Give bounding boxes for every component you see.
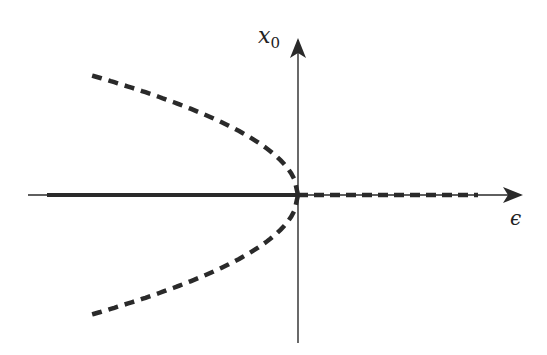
bifurcation-diagram: x0 ϵ [0, 0, 547, 355]
epsilon-axis-label: ϵ [510, 206, 521, 230]
x0-axis-label: x0 [258, 23, 280, 52]
upper-unstable-branch [90, 75, 298, 195]
lower-unstable-branch [90, 195, 298, 315]
